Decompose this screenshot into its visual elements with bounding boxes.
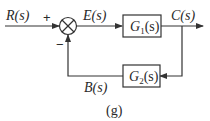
feedback-signal: B(s): [68, 35, 123, 96]
feedback-to-junction-arrow: [68, 35, 123, 76]
block-g1: G1(s): [123, 15, 161, 37]
block-g2-label: G2(s): [129, 69, 159, 86]
plus-sign: +: [43, 10, 51, 25]
output-signal: C(s): [161, 8, 203, 26]
feedback-to-g2-arrow: [160, 26, 182, 76]
input-label: R(s): [5, 8, 30, 24]
diagram-caption: (g): [106, 103, 123, 119]
summing-junction: −: [56, 18, 77, 53]
block-diagram: R(s) + − E(s) G1(s) C(s) G2(s) B(: [0, 0, 210, 121]
feedback-path: [160, 26, 182, 76]
block-g1-label: G1(s): [130, 19, 160, 36]
block-g2: G2(s): [123, 65, 160, 87]
feedback-label: B(s): [84, 80, 108, 96]
error-label: E(s): [82, 8, 107, 24]
error-signal: E(s): [77, 8, 123, 26]
output-label: C(s): [171, 8, 195, 24]
input-signal: R(s) +: [5, 8, 59, 26]
minus-sign: −: [56, 37, 64, 52]
